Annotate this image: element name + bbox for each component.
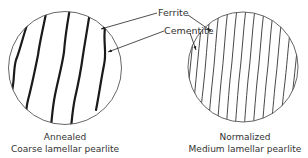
ferrite-label: Ferrite	[158, 7, 189, 18]
annealed-micrograph	[9, 8, 122, 135]
right-caption-structure: Medium lamellar pearlite	[189, 144, 302, 154]
coarse-cementite-lamellae	[11, 8, 105, 135]
cementite-leader-left	[108, 31, 164, 52]
ferrite-leader-left	[101, 13, 157, 29]
left-caption-treatment: Annealed	[44, 132, 86, 142]
pearlite-diagram: Ferrite Cementite Annealed Coarse lamell…	[0, 0, 308, 158]
cementite-label: Cementite	[164, 25, 214, 36]
right-caption-treatment: Normalized	[219, 132, 270, 142]
left-caption-structure: Coarse lamellar pearlite	[11, 144, 119, 154]
